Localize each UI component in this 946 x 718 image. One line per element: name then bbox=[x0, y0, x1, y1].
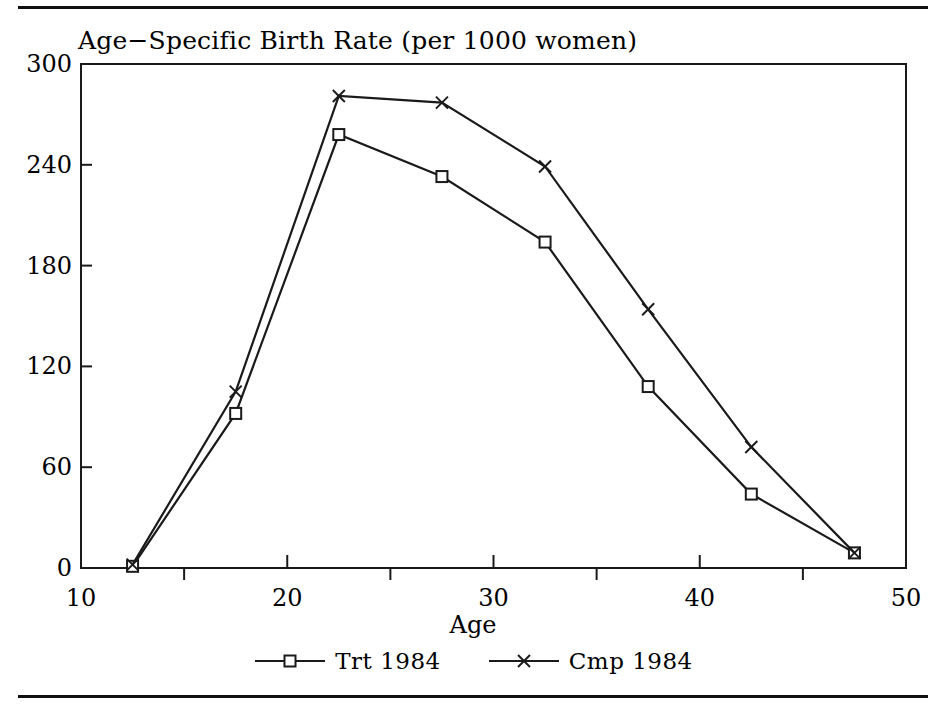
square-marker bbox=[643, 381, 654, 392]
line-chart-figure: Age−Specific Birth Rate (per 1000 women)… bbox=[0, 0, 946, 718]
legend-item: Cmp 1984 bbox=[487, 648, 693, 674]
y-axis-tick-label: 180 bbox=[10, 254, 72, 278]
x-axis-tick-label: 50 bbox=[871, 586, 941, 610]
series-layer bbox=[127, 90, 861, 572]
y-axis-tick-label: 0 bbox=[10, 556, 72, 580]
y-axis-tick-label: 60 bbox=[10, 455, 72, 479]
square-marker bbox=[436, 171, 447, 182]
cross-marker bbox=[745, 441, 757, 453]
cross-marker bbox=[230, 386, 242, 398]
plot-frame bbox=[81, 64, 906, 568]
axes-layer bbox=[81, 64, 906, 580]
legend-sample-square-marker bbox=[253, 651, 327, 671]
legend-sample-cross-marker bbox=[487, 651, 561, 671]
legend-item: Trt 1984 bbox=[253, 648, 440, 674]
figure-page: Age−Specific Birth Rate (per 1000 women)… bbox=[0, 0, 946, 718]
cross-marker bbox=[539, 160, 551, 172]
x-axis-tick-label: 10 bbox=[46, 586, 116, 610]
x-axis-tick-label: 40 bbox=[665, 586, 735, 610]
chart-legend: Trt 1984Cmp 1984 bbox=[0, 648, 946, 674]
cross-marker bbox=[642, 303, 654, 315]
square-marker bbox=[333, 129, 344, 140]
x-axis-tick-label: 30 bbox=[459, 586, 529, 610]
square-marker bbox=[230, 408, 241, 419]
legend-label: Trt 1984 bbox=[335, 648, 440, 674]
square-marker bbox=[285, 656, 296, 667]
square-marker bbox=[540, 237, 551, 248]
y-axis-tick-label: 300 bbox=[10, 52, 72, 76]
x-axis-title: Age bbox=[0, 611, 946, 639]
series-line bbox=[133, 135, 855, 567]
x-axis-tick-label: 20 bbox=[252, 586, 322, 610]
square-marker bbox=[746, 489, 757, 500]
legend-label: Cmp 1984 bbox=[569, 648, 693, 674]
y-axis-tick-label: 240 bbox=[10, 153, 72, 177]
y-axis-tick-label: 120 bbox=[10, 354, 72, 378]
square-marker bbox=[127, 561, 138, 572]
